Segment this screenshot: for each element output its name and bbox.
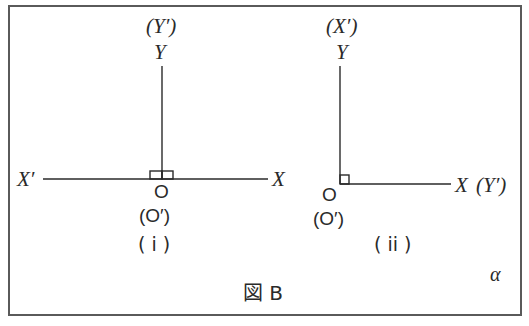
diagram-ii-axes (340, 66, 451, 184)
diagram-i-right-angle-right (162, 171, 173, 179)
diagram-ii-y-label: Y (336, 42, 348, 63)
corner-alpha-mark: α (490, 264, 501, 284)
figure-b: (Y′) Y X′ X O (O′) ( i ) (X′) Y X (Y′) O… (0, 0, 529, 326)
diagram-i-x-prime-label: X′ (17, 169, 34, 190)
diagram-i-origin-label: O (154, 182, 169, 201)
diagram-i-origin-alt-label: (O′) (139, 206, 170, 225)
diagram-ii-y-alt-label: (X′) (326, 16, 357, 37)
diagram-ii-origin-label: O (322, 185, 337, 204)
diagram-ii-x-label: X (455, 175, 468, 196)
diagram-i-y-label: Y (154, 42, 166, 63)
diagram-i-caption: ( i ) (138, 235, 170, 254)
diagram-ii-x-alt-label: (Y′) (476, 175, 506, 196)
diagram-ii-caption: ( ii ) (374, 235, 411, 254)
diagram-ii-origin-alt-label: (O′) (313, 209, 344, 228)
diagram-i-y-alt-label: (Y′) (146, 16, 176, 37)
diagram-ii-right-angle (340, 175, 349, 184)
diagram-i-x-label: X (272, 169, 285, 190)
diagram-i-right-angle-left (150, 171, 162, 179)
diagram-i-axes (43, 66, 268, 179)
axes-drawing (0, 0, 529, 326)
figure-caption: 図 B (243, 283, 283, 303)
